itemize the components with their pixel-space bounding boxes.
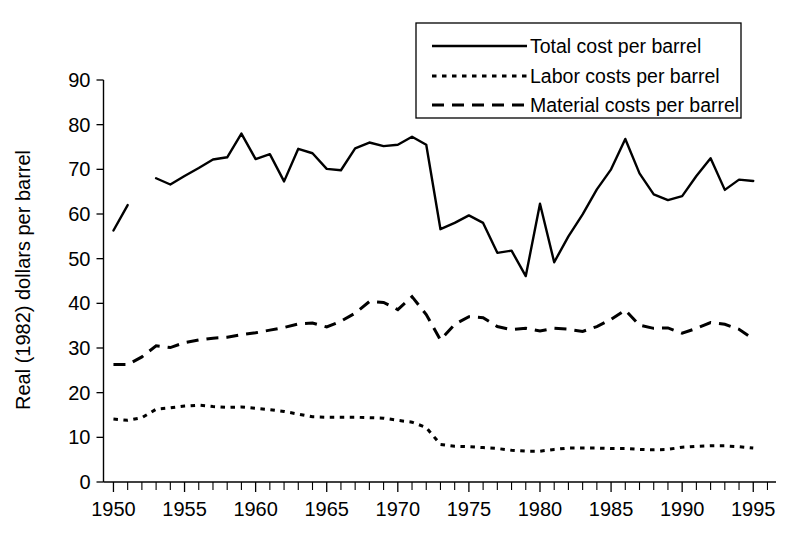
series-line-dotted (113, 405, 753, 451)
x-axis-tick-label: 1960 (233, 498, 278, 520)
x-axis-tick-label: 1990 (660, 498, 705, 520)
x-axis-tick-label: 1965 (304, 498, 349, 520)
series-line-solid (113, 205, 127, 230)
x-axis-tick-label: 1970 (376, 498, 421, 520)
x-axis-tick-label: 1975 (447, 498, 492, 520)
chart-container: Real (1982) dollars per barrel 010203040… (0, 0, 786, 549)
y-axis-tick-label: 20 (68, 382, 90, 404)
x-axis-tick-label: 1955 (162, 498, 207, 520)
y-axis-tick-label: 30 (68, 337, 90, 359)
series-line-dashed (113, 297, 753, 365)
series-lines (113, 134, 753, 452)
y-axis-ticks (97, 80, 104, 482)
y-axis-label-text: Real (1982) dollars per barrel (12, 150, 34, 410)
y-axis-tick-label: 10 (68, 426, 90, 448)
x-axis-tick-label: 1980 (518, 498, 563, 520)
x-axis-tick-label: 1985 (589, 498, 634, 520)
legend-label-labor: Labor costs per barrel (530, 65, 720, 87)
x-axis-tick-label: 1950 (91, 498, 136, 520)
legend-label-material: Material costs per barrel (530, 94, 739, 116)
y-axis-tick-label: 60 (68, 203, 90, 225)
x-axis-tick-labels: 1950195519601965197019751980198519901995 (91, 498, 775, 520)
x-axis-ticks (113, 482, 767, 492)
series-line-solid (156, 134, 753, 276)
y-axis-tick-label: 0 (79, 471, 90, 493)
y-axis-tick-label: 40 (68, 292, 90, 314)
legend-label-total: Total cost per barrel (530, 35, 701, 57)
y-axis-tick-label: 50 (68, 248, 90, 270)
line-chart: Real (1982) dollars per barrel 010203040… (0, 0, 786, 549)
chart-legend: Total cost per barrel Labor costs per ba… (416, 23, 741, 118)
x-axis-tick-label: 1995 (731, 498, 776, 520)
y-axis-tick-labels: 0102030405060708090 (68, 69, 90, 493)
y-axis-tick-label: 90 (68, 69, 90, 91)
y-axis-tick-label: 80 (68, 114, 90, 136)
y-axis-tick-label: 70 (68, 158, 90, 180)
y-axis-label: Real (1982) dollars per barrel (12, 150, 34, 410)
